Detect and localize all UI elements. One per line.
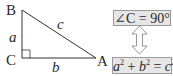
angle-condition-box: ∠C = 90° <box>113 10 171 26</box>
angle-condition-text: ∠C = 90 <box>114 11 164 26</box>
var-a: a <box>113 59 120 74</box>
side-label-b: b <box>52 60 60 75</box>
plus-sign: + <box>124 59 139 74</box>
side-label-a: a <box>9 30 17 45</box>
double-arrow-icon <box>132 26 147 54</box>
degree-symbol: ° <box>164 11 170 26</box>
right-angle-marker <box>22 50 30 58</box>
var-b: b <box>139 59 146 74</box>
equals-sign: = <box>150 59 165 74</box>
pythagorean-equation-box: a2 + b2 = c2 <box>112 57 172 74</box>
exp-c: 2 <box>171 58 173 67</box>
vertex-label-c: C <box>6 53 16 68</box>
vertex-label-a: A <box>97 54 108 69</box>
side-label-c: c <box>57 17 64 32</box>
vertex-label-b: B <box>6 3 16 18</box>
